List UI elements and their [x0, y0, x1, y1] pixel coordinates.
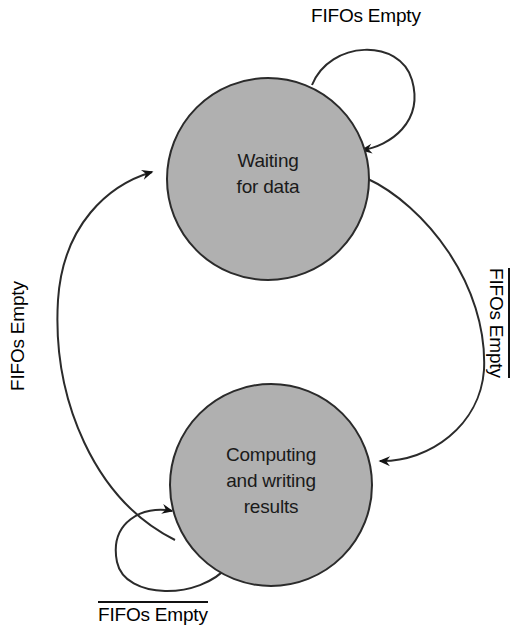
state-waiting-label-line1: Waiting: [237, 150, 298, 171]
edge-label-waiting-self-loop-text: FIFOs Empty: [311, 4, 421, 27]
edge-label-computing-self-loop-text: FIFOs Empty: [98, 601, 208, 626]
edge-computing-to-waiting: [57, 172, 175, 540]
edge-label-computing-to-waiting: FIFOs Empty: [6, 281, 29, 391]
edge-label-computing-self-loop: FIFOs Empty: [98, 601, 208, 626]
edge-label-waiting-to-computing-text: FIFOs Empty: [485, 268, 510, 378]
state-diagram: Waiting for data Computing and writing r…: [0, 0, 531, 640]
edge-label-computing-to-waiting-text: FIFOs Empty: [6, 281, 29, 391]
state-computing-label-line3: results: [244, 496, 299, 517]
state-computing-label-line2: and writing: [226, 470, 316, 491]
state-computing-label-line1: Computing: [226, 444, 316, 465]
edge-waiting-to-computing: [366, 178, 484, 461]
edge-label-waiting-to-computing: FIFOs Empty: [485, 268, 510, 378]
diagram-canvas: Waiting for data Computing and writing r…: [0, 0, 531, 640]
state-waiting-label-line2: for data: [237, 176, 300, 197]
edge-label-waiting-self-loop: FIFOs Empty: [311, 4, 421, 27]
